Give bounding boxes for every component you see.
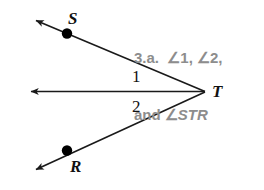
point-dot-S	[62, 28, 72, 38]
prompt-line-2: and ∠STR	[134, 105, 260, 124]
problem-prompt: 3.a. ∠1, ∠2, and ∠STR	[134, 10, 260, 162]
prompt-line-2-points: STR	[178, 106, 208, 123]
point-dot-R	[62, 145, 72, 155]
point-label-R: R	[70, 158, 81, 175]
angle-diagram-figure: S R T 1 2 3.a. ∠1, ∠2, and ∠STR	[0, 0, 264, 190]
prompt-line-1: 3.a. ∠1, ∠2,	[134, 48, 260, 67]
point-label-S: S	[68, 10, 77, 27]
prompt-line-2-prefix: and ∠	[134, 106, 178, 123]
